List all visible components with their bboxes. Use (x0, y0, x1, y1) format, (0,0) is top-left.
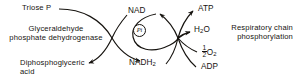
label-adp: ADP (201, 62, 218, 71)
label-diphosphoglyceric-acid: Diphosphoglyceric acid (20, 59, 85, 76)
label-pi: Pi (137, 27, 143, 33)
pi-node: Pi (133, 24, 146, 37)
label-respiratory-chain-phosphorylation: Respiratory chain phosphorylation (215, 24, 293, 41)
label-nadh2: NADH2 (129, 58, 156, 68)
label-nad: NAD (128, 6, 146, 15)
arrow-nadh2-to-node (166, 38, 178, 64)
arrow-adp-to-node (178, 38, 196, 67)
label-h2o-base-b: O (203, 25, 209, 34)
label-nadh2-sub: 2 (153, 61, 156, 67)
label-enzyme: Glyceraldehyde phosphate dehydrogenase (0, 25, 112, 42)
label-atp: ATP (198, 4, 214, 13)
label-respiratory-line2: phosphorylation (237, 32, 293, 41)
label-half-o2: 1 2 O2 (202, 45, 217, 59)
label-enzyme-line2: phosphate dehydrogenase (9, 33, 102, 42)
label-h2o: H2O (194, 25, 210, 35)
biochemical-pathway-diagram: Triose P Glyceraldehyde phosphate dehydr… (0, 0, 295, 82)
label-o2-sub: 2 (213, 51, 216, 57)
label-triose-p: Triose P (22, 4, 51, 13)
label-diphosphoglyceric-line2: acid (20, 67, 35, 76)
arrow-to-nad (160, 14, 178, 38)
label-nadh2-base: NADH (129, 58, 153, 67)
